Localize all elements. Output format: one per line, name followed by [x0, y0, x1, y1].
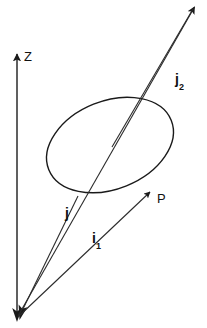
- vector-j-label: j: [65, 206, 69, 220]
- point-p-label: P: [157, 192, 166, 205]
- vector-i1-label-subscript: 1: [96, 241, 101, 251]
- vector-i1-arrow: [18, 192, 150, 317]
- vector-j2-arrow: [18, 7, 195, 316]
- vector-j2-label: j2: [175, 72, 184, 90]
- z-axis-arrow: [12, 54, 22, 322]
- vector-j-label-base: j: [65, 205, 69, 221]
- vector-j-arrow: [19, 196, 78, 320]
- z-axis-label: Z: [24, 50, 32, 63]
- vector-j2-label-subscript: 2: [179, 82, 184, 92]
- vector-diagram-figure: Z P j i1 j2: [0, 0, 207, 328]
- vector-i1-label: i1: [92, 231, 101, 249]
